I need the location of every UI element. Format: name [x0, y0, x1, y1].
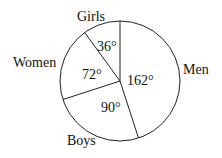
slice-value-girls: 36°: [97, 39, 117, 54]
category-label-boys: Boys: [67, 133, 96, 148]
slice-value-boys: 90°: [101, 100, 121, 115]
slice-value-women: 72°: [82, 67, 102, 82]
divider-boys-women: [63, 81, 120, 100]
category-label-girls: Girls: [77, 9, 105, 24]
slice-value-men: 162°: [127, 73, 154, 88]
pie-chart: 162° 90° 72° 36° Men Boys Women Girls: [0, 0, 222, 158]
category-label-men: Men: [183, 62, 209, 77]
category-label-women: Women: [13, 55, 56, 70]
divider-men-boys: [120, 81, 139, 138]
